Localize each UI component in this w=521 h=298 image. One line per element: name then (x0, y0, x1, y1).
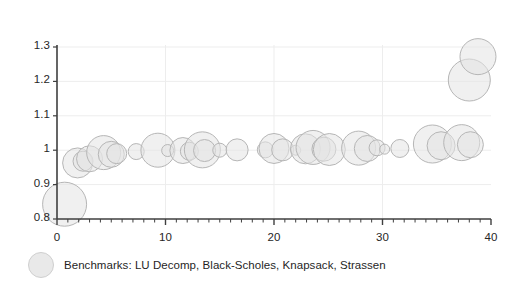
bubble-point (457, 132, 483, 158)
bubble-series (43, 39, 496, 227)
x-axis-tick-label: 10 (146, 231, 186, 243)
bubble-point (313, 134, 345, 166)
bubble-point (226, 139, 248, 161)
legend-bubble-marker-icon (28, 252, 54, 278)
bubble-chart: 0.80.911.11.21.3 010203040 Benchmarks: L… (0, 0, 521, 298)
y-axis-tick-label: 0.8 (8, 211, 50, 223)
y-axis-tick-label: 1 (8, 142, 50, 154)
bubble-point (460, 39, 496, 75)
bubble-point (107, 144, 127, 164)
legend-label: Benchmarks: LU Decomp, Black-Scholes, Kn… (64, 259, 386, 271)
bubble-point (391, 139, 409, 157)
x-axis-tick-label: 30 (363, 231, 403, 243)
y-axis-tick-label: 1.2 (8, 73, 50, 85)
x-axis-tick-label: 40 (471, 231, 511, 243)
x-axis-tick-label: 20 (254, 231, 294, 243)
y-axis-tick-label: 1.3 (8, 39, 50, 51)
bubble-point (380, 144, 390, 154)
y-axis-tick-label: 0.9 (8, 177, 50, 189)
bubble-point (213, 143, 227, 157)
x-axis-tick-label: 0 (37, 231, 77, 243)
chart-legend: Benchmarks: LU Decomp, Black-Scholes, Kn… (28, 252, 386, 278)
y-axis-tick-label: 1.1 (8, 108, 50, 120)
